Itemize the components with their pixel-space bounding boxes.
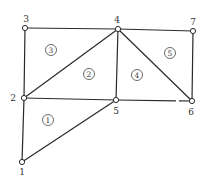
nodes-group: 1234567 [10, 14, 196, 177]
edge-2-4 [24, 29, 118, 98]
element-5: 5 [165, 48, 176, 59]
edge-4-6 [118, 29, 192, 101]
edge-3-4 [25, 28, 118, 29]
element-label: 1 [46, 116, 51, 125]
edge-6-7 [192, 31, 193, 101]
node-4: 4 [114, 15, 120, 32]
node-marker-icon [21, 95, 26, 100]
element-label: 5 [168, 49, 173, 58]
element-2: 2 [84, 69, 95, 80]
elements-group: 12345 [43, 45, 176, 126]
node-marker-icon [19, 159, 24, 164]
element-4: 4 [132, 70, 143, 81]
node-marker-icon [22, 25, 27, 30]
node-label: 3 [23, 14, 29, 24]
node-marker-icon [189, 98, 194, 103]
node-marker-icon [190, 28, 195, 33]
node-label: 7 [190, 17, 196, 27]
node-6: 6 [188, 98, 194, 117]
edge-5-6 [116, 100, 192, 101]
node-marker-icon [113, 97, 118, 102]
edge-2-5 [24, 98, 116, 100]
edge-1-5 [22, 100, 116, 162]
node-5: 5 [113, 97, 119, 116]
node-1: 1 [19, 159, 25, 177]
node-label: 5 [113, 106, 119, 116]
element-label: 4 [135, 71, 140, 80]
element-label: 3 [49, 46, 54, 55]
element-label: 2 [87, 70, 92, 79]
element-3: 3 [46, 45, 57, 56]
node-label: 2 [10, 93, 16, 103]
node-marker-icon [115, 26, 120, 31]
node-7: 7 [190, 17, 196, 34]
edge-1-2 [22, 98, 24, 162]
node-label: 6 [188, 107, 194, 117]
edge-2-3 [24, 28, 25, 98]
node-label: 4 [114, 15, 120, 25]
mesh-diagram: 12345 1234567 [0, 0, 205, 183]
node-label: 1 [19, 167, 25, 177]
edge-4-5 [116, 29, 118, 100]
edge-4-7 [118, 29, 193, 31]
element-1: 1 [43, 115, 54, 126]
